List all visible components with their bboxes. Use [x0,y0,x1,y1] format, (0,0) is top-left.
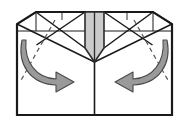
origami-diagram-svg [0,0,190,122]
origami-diagram-figure [0,0,190,122]
